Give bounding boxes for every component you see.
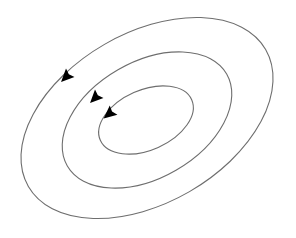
inner-loop bbox=[88, 72, 204, 167]
middle-loop bbox=[38, 24, 255, 216]
direction-arrows bbox=[57, 69, 118, 124]
orbit-diagram bbox=[0, 0, 296, 238]
outer-loop bbox=[0, 0, 296, 238]
inner-arrowhead-icon bbox=[100, 106, 118, 124]
outer-arrowhead-icon bbox=[57, 69, 75, 87]
elliptical-loops bbox=[0, 0, 296, 238]
